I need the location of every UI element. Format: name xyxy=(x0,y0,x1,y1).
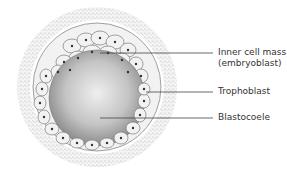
label-blastocoele: Blastocoele xyxy=(218,112,270,123)
label-inner-cell-mass-line1: Inner cell mass xyxy=(218,47,286,58)
label-inner-cell-mass: Inner cell mass (embryoblast) xyxy=(218,47,286,69)
label-inner-cell-mass-line2: (embryoblast) xyxy=(218,58,286,69)
label-trophoblast: Trophoblast xyxy=(218,86,270,97)
